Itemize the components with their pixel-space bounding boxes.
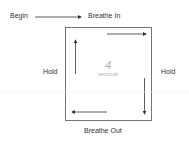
step-hold-left-label: Hold	[43, 68, 57, 75]
step-hold-right-label: Hold	[161, 68, 175, 75]
duration-unit: seconds	[92, 71, 124, 77]
center-duration: 4 seconds	[92, 59, 124, 77]
duration-value: 4	[92, 59, 124, 71]
begin-label: Begin	[10, 12, 28, 19]
step-breathe-out-label: Breathe Out	[84, 127, 122, 134]
step-breathe-in-label: Breathe In	[88, 12, 120, 19]
